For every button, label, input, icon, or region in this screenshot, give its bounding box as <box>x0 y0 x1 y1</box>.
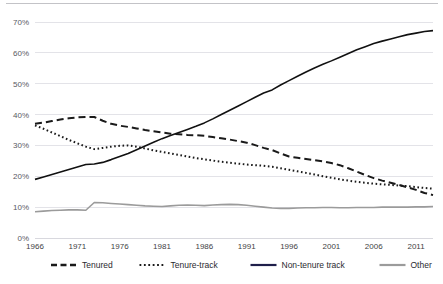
x-tick-label-2011: 2011 <box>407 242 425 251</box>
x-tick-label-1981: 1981 <box>153 242 171 251</box>
plot-area-wrapper: 0%10%20%30%40%50%60%70% 1966197119761981… <box>0 0 443 284</box>
y-tick-label-30%: 30% <box>13 141 29 150</box>
series-line-tenure-track <box>35 125 433 188</box>
x-tick-label-1966: 1966 <box>26 242 44 251</box>
y-tick-label-40%: 40% <box>13 111 29 120</box>
x-tick-label-1996: 1996 <box>280 242 298 251</box>
y-tick-label-60%: 60% <box>13 49 29 58</box>
x-tick-label-2001: 2001 <box>322 242 340 251</box>
line-chart-svg: 0%10%20%30%40%50%60%70% 1966197119761981… <box>0 0 443 284</box>
data-series-group <box>35 31 433 212</box>
series-line-tenured <box>35 117 433 195</box>
legend-label-tenure-track: Tenure-track <box>171 260 219 270</box>
y-axis-tick-labels: 0%10%20%30%40%50%60%70% <box>13 18 29 243</box>
x-tick-label-1986: 1986 <box>195 242 213 251</box>
x-axis-tick-labels: 1966197119761981198619911996200120062011 <box>26 242 425 251</box>
gridlines-group <box>35 22 433 238</box>
legend-label-tenured: Tenured <box>82 260 113 270</box>
chart-container: 0%10%20%30%40%50%60%70% 1966197119761981… <box>0 0 443 284</box>
x-tick-label-1991: 1991 <box>238 242 256 251</box>
x-tick-label-1971: 1971 <box>68 242 86 251</box>
x-tick-label-2006: 2006 <box>365 242 383 251</box>
x-tick-label-1976: 1976 <box>111 242 129 251</box>
y-tick-label-50%: 50% <box>13 80 29 89</box>
y-tick-label-20%: 20% <box>13 172 29 181</box>
y-tick-label-10%: 10% <box>13 203 29 212</box>
legend-label-non-tenure-track: Non-tenure track <box>282 260 346 270</box>
y-tick-label-70%: 70% <box>13 18 29 27</box>
chart-legend: TenuredTenure-trackNon-tenure trackOther <box>51 260 432 270</box>
legend-label-other: Other <box>411 260 432 270</box>
